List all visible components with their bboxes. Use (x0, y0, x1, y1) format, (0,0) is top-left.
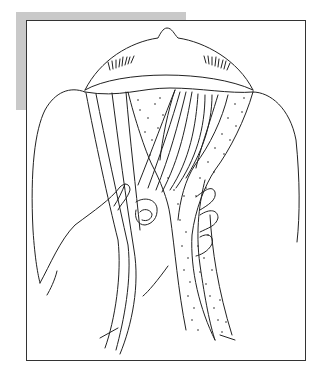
fingers (196, 189, 218, 256)
head-outline (85, 28, 253, 90)
stipple-dots (137, 97, 245, 333)
right-cheek-contour (253, 92, 299, 242)
striated-muscle (138, 90, 218, 192)
left-cheek-contour (32, 90, 85, 283)
hand (40, 184, 157, 295)
left-muscle-strands (86, 92, 168, 354)
thumbnail (140, 210, 152, 221)
medical-illustration (0, 0, 323, 380)
dotted-flap-right (178, 92, 253, 340)
upper-band (85, 88, 253, 94)
